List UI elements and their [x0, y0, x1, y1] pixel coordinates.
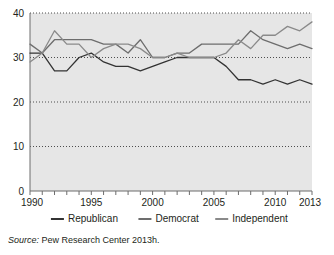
- y-axis-label-40: 40: [13, 8, 25, 19]
- party-identification-line-chart: 010203040 199019952000200520102013 Repub…: [0, 0, 334, 255]
- x-axis-ticks: [30, 191, 312, 195]
- x-axis-label-1990: 1990: [21, 197, 44, 208]
- source-note: Source: Pew Research Center 2013h.: [8, 234, 160, 246]
- y-axis-label-30: 30: [13, 52, 25, 63]
- chart-legend: RepublicanDemocratIndependent: [51, 213, 288, 224]
- x-axis-labels: 199019952000200520102013: [21, 197, 322, 208]
- x-axis-label-1995: 1995: [80, 197, 103, 208]
- y-axis-label-10: 10: [13, 141, 25, 152]
- chart-figure: 010203040 199019952000200520102013 Repub…: [0, 0, 334, 255]
- legend-label-independent: Independent: [232, 213, 288, 224]
- x-axis-label-2000: 2000: [141, 197, 164, 208]
- source-label: Source:: [8, 235, 39, 245]
- x-axis-label-2010: 2010: [264, 197, 287, 208]
- y-axis-label-20: 20: [13, 97, 25, 108]
- x-axis-label-2005: 2005: [203, 197, 226, 208]
- legend-label-democrat: Democrat: [155, 213, 199, 224]
- y-axis-labels: 010203040: [13, 8, 25, 197]
- x-axis-label-2013: 2013: [299, 197, 322, 208]
- legend-label-republican: Republican: [68, 213, 118, 224]
- y-axis-label-0: 0: [18, 186, 24, 197]
- source-citation: Pew Research Center 2013h.: [39, 235, 160, 245]
